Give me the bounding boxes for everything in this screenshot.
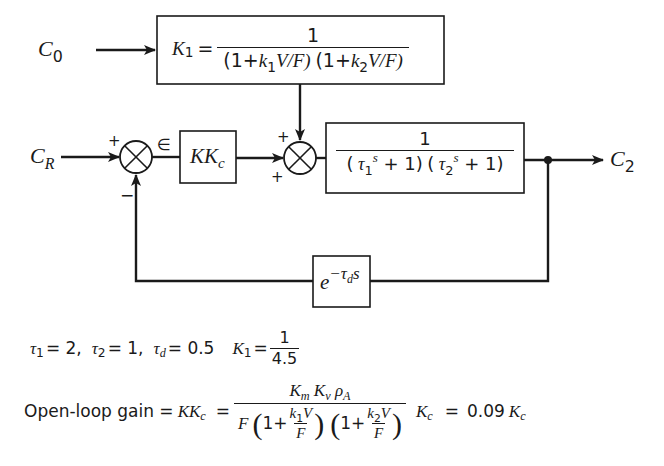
block-diagram: C0 K1 = 1 (1+k1V/F) (1+k2V/F) CR + − ∈ K… — [0, 0, 664, 466]
parameter-values: τ1 = 2, τ2 = 1, τd = 0.5 K1 = 1 4.5 — [30, 330, 299, 367]
takeoff-dot — [544, 156, 552, 164]
open-loop-gain-equation: Open-loop gain = KKc = Km Kv ρA F ( 1+ k… — [24, 382, 526, 441]
controller-label: KKc — [190, 146, 225, 167]
disturbance-sum-plus-top: + — [277, 130, 290, 145]
comparator-plus-sign: + — [108, 134, 121, 149]
comparator-minus-sign: − — [120, 187, 134, 204]
disturbance-input-label: C0 — [38, 38, 63, 60]
setpoint-input-label: CR — [30, 145, 54, 167]
disturbance-gain-formula: K1 = 1 (1+k1V/F) (1+k2V/F) — [172, 26, 409, 70]
feedback-line-right — [370, 160, 548, 281]
output-label: C2 — [610, 148, 635, 170]
process-transfer-function: 1 ( τ1s + 1) ( τ2s + 1) — [338, 130, 512, 173]
dead-time-label: e−τds — [320, 272, 360, 293]
disturbance-sum-plus-bottom: + — [271, 170, 284, 185]
error-symbol: ∈ — [157, 137, 171, 153]
feedback-line-left — [136, 175, 313, 281]
